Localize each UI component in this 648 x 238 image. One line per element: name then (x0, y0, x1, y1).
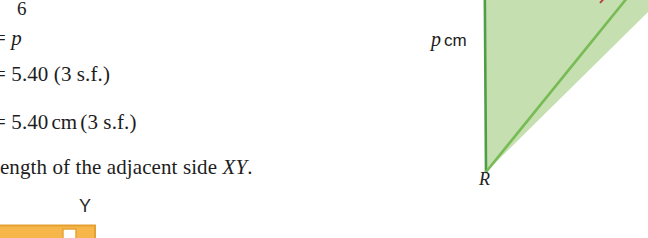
triangle-left-leg (485, 0, 487, 172)
vertex-label-r: R (479, 169, 490, 190)
page-canvas: 6 = p = 5.40 (3 s.f.) = 5.40cm(3 s.f.) l… (0, 0, 648, 238)
green-triangle-shape (484, 0, 648, 172)
vertex-label-y: Y (79, 196, 91, 217)
adjacent-text: length of the adjacent side (0, 155, 222, 179)
right-angle-marker (63, 229, 76, 238)
variable-p: p (11, 26, 22, 50)
sentence-period: . (247, 155, 252, 179)
orange-figure-body (0, 225, 96, 238)
value-prefix: = 5.40 (0, 110, 48, 134)
solution-line-numerator-six: 6 (17, 0, 27, 20)
solution-line-value-540: = 5.40 (3 s.f.) (0, 62, 110, 87)
solution-line-value-540-cm: = 5.40cm(3 s.f.) (0, 110, 137, 135)
unit-cm: cm (51, 110, 77, 134)
angle-arc-marker (600, 0, 624, 3)
triangle-hypotenuse (486, 0, 640, 172)
triangle-side-label-p-cm: pcm (431, 28, 467, 51)
solution-line-equals-p: = p (0, 26, 22, 51)
unit-cm-label: cm (444, 31, 467, 50)
equals-prefix: = (0, 26, 11, 50)
significant-figures-note: (3 s.f.) (80, 110, 136, 134)
segment-label-xy: XY (222, 155, 247, 179)
variable-p-label: p (431, 28, 441, 50)
solution-line-adjacent-side: length of the adjacent side XY. (0, 155, 253, 180)
